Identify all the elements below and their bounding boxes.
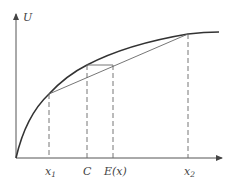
tick-label-x2: x2: [184, 165, 195, 179]
utility-curve: [16, 32, 219, 158]
utility-diagram: U x1 C E(x) x2: [0, 0, 234, 182]
chord-line: [49, 34, 188, 94]
tick-label-x1: x1: [45, 165, 56, 179]
tick-label-c: C: [83, 165, 92, 178]
tick-label-ex: E(x): [103, 165, 127, 178]
y-axis-label: U: [23, 11, 33, 24]
